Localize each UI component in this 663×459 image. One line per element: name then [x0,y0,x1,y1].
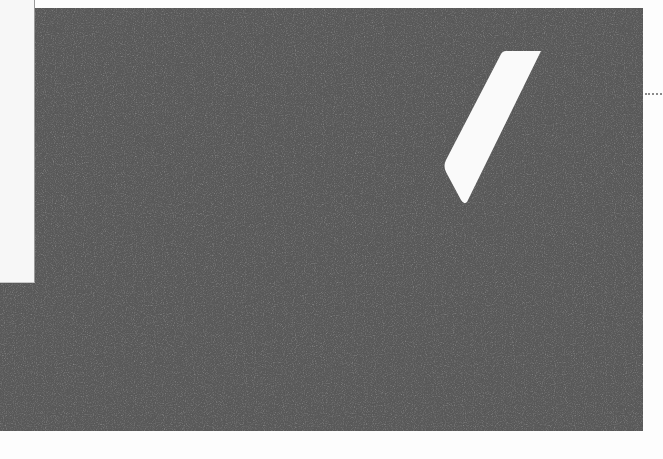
sheet-body [0,8,643,431]
left-white-panel [0,0,35,283]
scanned-image [0,0,663,459]
dark-textured-sheet [0,0,663,459]
dotted-mark [645,93,662,95]
